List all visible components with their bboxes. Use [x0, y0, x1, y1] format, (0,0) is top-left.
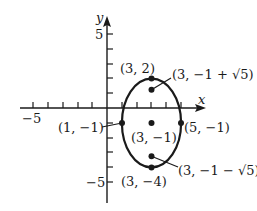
label-top-vertex: (3, 2)	[120, 61, 155, 76]
label-lower-focus: (3, −1 − √5)	[178, 163, 257, 178]
y-tick-label-5: 5	[95, 27, 103, 42]
label-bottom-vertex: (3, −4)	[121, 174, 167, 189]
label-left-vertex: (1, −1)	[58, 120, 104, 135]
point-center	[149, 120, 155, 126]
y-axis: y 5 −5	[86, 10, 113, 203]
point-top-vertex	[149, 76, 155, 82]
leader-lower-focus	[152, 156, 179, 167]
ellipse-diagram: x −5 y 5 −5	[0, 0, 257, 211]
points	[119, 76, 184, 171]
y-axis-label: y	[95, 10, 104, 25]
y-tick-label-neg5: −5	[86, 175, 105, 190]
x-tick-label-neg5: −5	[22, 111, 41, 126]
label-right-vertex: (5, −1)	[184, 120, 230, 135]
diagram-canvas: x −5 y 5 −5	[0, 0, 257, 211]
label-center: (3, −1)	[131, 130, 177, 145]
point-bottom-vertex	[149, 164, 155, 170]
label-upper-focus: (3, −1 + √5)	[172, 67, 254, 82]
x-axis-label: x	[198, 92, 206, 107]
x-axis: x −5	[20, 92, 206, 126]
